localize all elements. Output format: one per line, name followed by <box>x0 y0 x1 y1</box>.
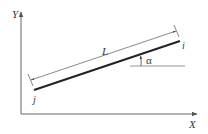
end-node-label: i <box>182 41 185 51</box>
dimension-tick-end <box>174 25 179 37</box>
y-axis-label: Y <box>12 9 18 20</box>
dimension-tick-start <box>28 74 33 86</box>
length-label: L <box>102 46 108 57</box>
angle-label: α <box>146 55 152 66</box>
x-axis-label: X <box>189 119 196 130</box>
start-node-label: j <box>33 95 36 105</box>
angle-arc-icon <box>141 56 142 66</box>
member-diagram <box>0 0 208 134</box>
